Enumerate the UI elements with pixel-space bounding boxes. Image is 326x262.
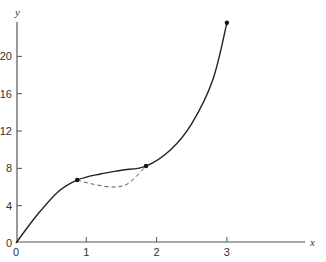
y-axis-label: y [14,6,20,18]
x-tick-label: 2 [154,246,160,258]
y-tick-label: 8 [6,162,12,174]
x-tick-label: 0 [13,246,19,258]
x-tick-label: 1 [83,246,89,258]
data-point-marker [225,21,229,25]
y-tick-label: 4 [6,200,12,212]
chart: yx0481216200123 [0,0,326,262]
x-tick-label: 3 [224,246,230,258]
y-tick-label: 0 [6,237,12,249]
solid-curve [16,23,227,243]
y-tick-label: 12 [0,125,12,137]
y-tick-label: 20 [0,50,12,62]
x-axis-label: x [309,236,315,248]
y-tick-label: 16 [0,88,12,100]
data-point-marker [144,164,148,168]
data-point-marker [75,178,79,182]
